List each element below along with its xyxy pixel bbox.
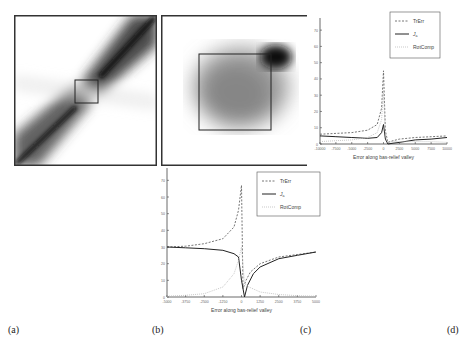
x-tick-label: -7500 (331, 147, 340, 151)
x-tick-label: 5000 (312, 300, 320, 304)
x-tick-label: -3750 (181, 300, 190, 304)
y-tick-label: 30 (314, 94, 318, 98)
x-axis-label: Error along bas-relief valley (353, 154, 414, 160)
x-tick-label: -5000 (163, 300, 172, 304)
series-trerr (320, 71, 447, 143)
label-a: (a) (8, 324, 19, 335)
y-tick-label: 0 (163, 296, 165, 300)
line-chart-bottom: 010203040506070-5000-3750-2500-125001250… (150, 168, 322, 318)
x-tick-label: -2500 (200, 300, 209, 304)
density-image-b (161, 15, 307, 166)
x-tick-label: 2500 (275, 300, 283, 304)
chart-bottom: 010203040506070-5000-3750-2500-125001250… (150, 168, 322, 318)
x-axis-label: Error along bas-relief valley (211, 307, 272, 313)
x-tick-label: -5000 (347, 147, 356, 151)
label-b: (b) (152, 324, 164, 335)
x-tick-label: 10000 (442, 147, 452, 151)
legend-item: RotComp (280, 204, 301, 210)
x-tick-label: 7500 (427, 147, 435, 151)
x-tick-label: -2500 (363, 147, 372, 151)
y-tick-label: 40 (161, 229, 165, 233)
y-tick-label: 20 (314, 110, 318, 114)
line-chart-top: 010203040506070-10000-7500-5000-25000250… (308, 0, 474, 170)
y-tick-label: 70 (161, 179, 165, 183)
y-tick-label: 70 (314, 29, 318, 33)
y-tick-label: 0 (316, 143, 318, 147)
y-tick-label: 50 (314, 61, 318, 65)
legend-item: RotComp (413, 44, 434, 50)
x-tick-label: 0 (241, 300, 243, 304)
series-rotcomp (167, 247, 316, 296)
x-tick-label: 2500 (395, 147, 403, 151)
y-tick-label: 50 (161, 212, 165, 216)
x-tick-label: -10000 (315, 147, 326, 151)
series-rotcomp (320, 90, 447, 142)
y-tick-label: 10 (161, 279, 165, 283)
y-tick-label: 60 (161, 196, 165, 200)
x-tick-label: 1250 (256, 300, 264, 304)
series-ja (167, 247, 316, 297)
y-tick-label: 10 (314, 126, 318, 130)
y-tick-label: 20 (161, 262, 165, 266)
y-tick-label: 30 (161, 246, 165, 250)
density-image-a (14, 15, 157, 166)
x-tick-label: -1250 (218, 300, 227, 304)
x-tick-label: 5000 (411, 147, 419, 151)
chart-top-right: 010203040506070-10000-7500-5000-25000250… (308, 0, 474, 170)
series-ja (320, 125, 447, 145)
panel-b-image (161, 15, 307, 166)
x-tick-label: 0 (383, 147, 385, 151)
y-tick-label: 40 (314, 77, 318, 81)
y-tick-label: 60 (314, 45, 318, 49)
label-d: (d) (447, 324, 459, 335)
legend-item: TrErr (413, 18, 425, 24)
legend-item: TrErr (280, 178, 292, 184)
x-tick-label: 3750 (293, 300, 301, 304)
panel-a-image (14, 15, 157, 166)
label-c: (c) (300, 324, 311, 335)
